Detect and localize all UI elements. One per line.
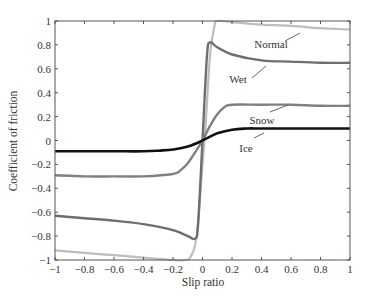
y-tick-label: −0.2 xyxy=(31,158,51,170)
y-tick-label: 0.8 xyxy=(37,39,51,51)
curve-label-snow: Snow xyxy=(249,114,274,126)
x-tick-label: 1 xyxy=(347,263,353,275)
y-axis-title: Coefficient of friction xyxy=(7,90,19,191)
y-tick-label: 0.4 xyxy=(37,87,51,99)
leader-line-wet xyxy=(252,66,266,78)
x-tick-label: 0.2 xyxy=(225,263,239,275)
curve-label-normal: Normal xyxy=(254,38,288,50)
x-tick-label: 0.6 xyxy=(284,263,298,275)
x-tick-label: 0.8 xyxy=(314,263,328,275)
y-tick-label: −0.4 xyxy=(31,182,51,194)
leader-line-snow xyxy=(270,105,288,112)
curve-labels: NormalWetSnowIce xyxy=(229,33,300,154)
x-tick-label: 0 xyxy=(200,263,206,275)
y-tick-label: 0.6 xyxy=(37,63,51,75)
y-tick-labels: 10.80.60.40.20−0.2−0.4−0.6−0.8−1 xyxy=(31,15,51,266)
y-tick-label: 1 xyxy=(46,15,52,27)
x-tick-label: −0.4 xyxy=(134,263,154,275)
x-tick-label: 0.4 xyxy=(255,263,269,275)
y-tick-label: −1 xyxy=(39,254,51,266)
x-axis-title: Slip ratio xyxy=(182,276,225,289)
curve-label-ice: Ice xyxy=(239,142,253,154)
x-tick-label: −0.8 xyxy=(75,263,95,275)
x-tick-labels: −1−0.8−0.6−0.4−0.200.20.40.60.81 xyxy=(49,263,353,275)
y-tick-label: −0.8 xyxy=(31,230,51,242)
x-tick-label: −0.2 xyxy=(163,263,183,275)
curve-label-wet: Wet xyxy=(229,73,246,85)
curves-layer xyxy=(55,21,350,261)
y-tick-label: −0.6 xyxy=(31,206,51,218)
y-tick-label: 0 xyxy=(46,135,52,147)
friction-chart: −1−0.8−0.6−0.4−0.200.20.40.60.81 10.80.6… xyxy=(0,0,369,302)
y-tick-label: 0.2 xyxy=(37,111,51,123)
x-tick-label: −0.6 xyxy=(104,263,124,275)
leader-line-ice xyxy=(254,133,264,138)
